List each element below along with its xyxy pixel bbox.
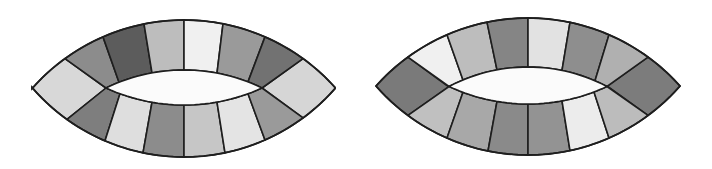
lens-segment-top	[184, 20, 223, 73]
lens-shape-left	[32, 20, 335, 157]
diagram-canvas	[0, 0, 712, 169]
lens-segment-top	[144, 20, 184, 73]
lens-shape-right	[376, 18, 680, 155]
